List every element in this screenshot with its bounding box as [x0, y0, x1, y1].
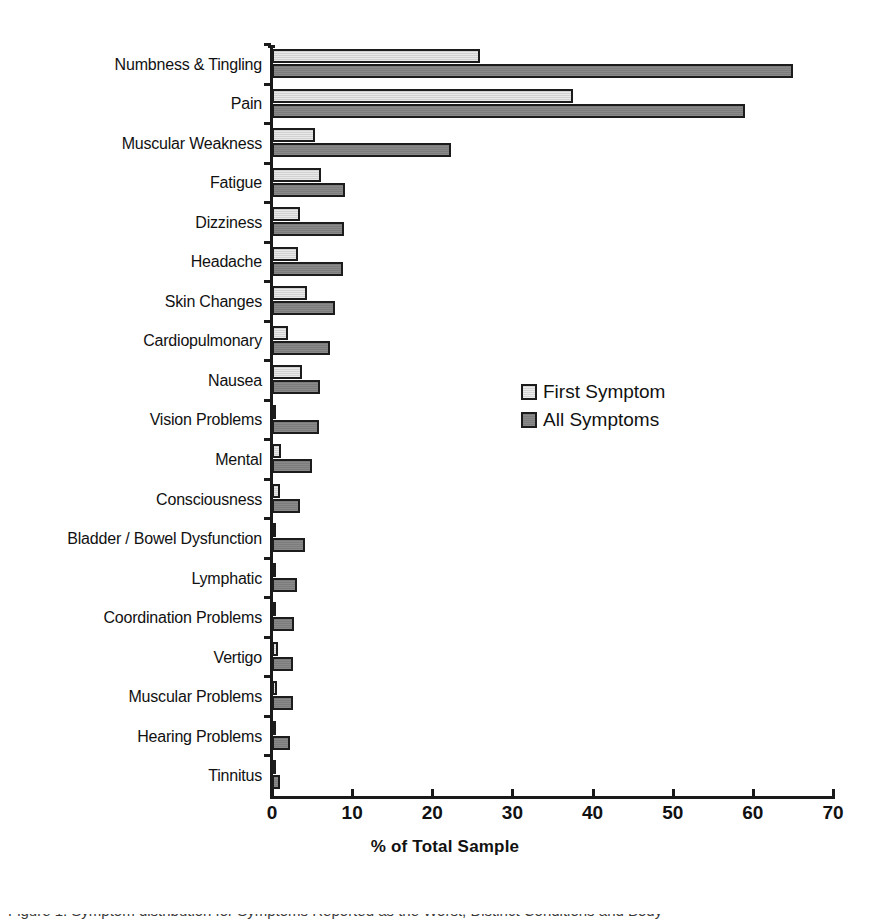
bar-first-symptom: [272, 760, 276, 774]
y-axis-tick: [264, 122, 271, 125]
bar-all-symptoms: [272, 538, 305, 552]
bar-all-symptoms: [272, 64, 793, 78]
bar-first-symptom: [272, 484, 280, 498]
x-axis-line: [270, 796, 835, 799]
x-axis-tick-label: 70: [811, 802, 855, 824]
chart-category-row: Dizziness: [272, 203, 833, 243]
bar-first-symptom: [272, 523, 276, 537]
bar-first-symptom: [272, 207, 300, 221]
chart-category-row: Skin Changes: [272, 282, 833, 322]
category-label: Hearing Problems: [137, 728, 262, 746]
bar-all-symptoms: [272, 262, 343, 276]
chart-category-row: Consciousness: [272, 480, 833, 520]
bar-all-symptoms: [272, 617, 294, 631]
bar-all-symptoms: [272, 104, 745, 118]
bar-all-symptoms: [272, 420, 319, 434]
bar-first-symptom: [272, 168, 321, 182]
x-axis-tick: [592, 789, 595, 798]
bar-first-symptom: [272, 49, 480, 63]
x-axis-tick-label: 0: [250, 802, 294, 824]
y-axis-tick: [264, 636, 271, 639]
category-label: Pain: [231, 95, 262, 113]
chart-category-row: Coordination Problems: [272, 598, 833, 638]
category-label: Consciousness: [156, 491, 262, 509]
bar-first-symptom: [272, 365, 302, 379]
x-axis-tick: [511, 789, 514, 798]
chart-category-row: Fatigue: [272, 164, 833, 204]
x-axis-tick: [271, 789, 274, 798]
y-axis-tick: [264, 517, 271, 520]
y-axis-tick: [264, 675, 271, 678]
category-label: Lymphatic: [191, 570, 262, 588]
y-axis-tick: [264, 557, 271, 560]
bar-all-symptoms: [272, 341, 330, 355]
category-label: Nausea: [208, 372, 262, 390]
x-axis-tick-label: 60: [731, 802, 775, 824]
bar-all-symptoms: [272, 657, 293, 671]
bar-all-symptoms: [272, 222, 344, 236]
category-label: Cardiopulmonary: [143, 332, 262, 350]
category-label: Skin Changes: [165, 293, 262, 311]
bar-all-symptoms: [272, 499, 300, 513]
legend-label-first-symptom: First Symptom: [543, 382, 665, 402]
y-axis-tick: [264, 320, 271, 323]
chart-category-row: Cardiopulmonary: [272, 322, 833, 362]
y-axis-tick: [264, 596, 271, 599]
figure-caption-cropped: Figure 1. Symptom distribution for Sympt…: [0, 914, 890, 924]
legend-swatch-icon-first-symptom: [521, 384, 537, 400]
category-label: Coordination Problems: [103, 609, 262, 627]
bar-all-symptoms: [272, 736, 290, 750]
category-label: Vision Problems: [150, 411, 262, 429]
y-axis-tick: [264, 201, 271, 204]
y-axis-tick: [264, 83, 271, 86]
y-axis-tick: [264, 478, 271, 481]
horizontal-bar-chart: Numbness & TinglingPainMuscular Weakness…: [0, 0, 890, 924]
category-label: Fatigue: [210, 174, 262, 192]
x-axis-tick-label: 50: [651, 802, 695, 824]
x-axis-tick: [752, 789, 755, 798]
chart-legend: First Symptom All Symptoms: [521, 378, 731, 434]
category-label: Muscular Weakness: [122, 135, 262, 153]
category-label: Headache: [191, 253, 262, 271]
bar-first-symptom: [272, 602, 276, 616]
bar-first-symptom: [272, 89, 573, 103]
figure-caption-text: Figure 1. Symptom distribution for Sympt…: [8, 914, 882, 919]
chart-category-row: Tinnitus: [272, 756, 833, 796]
legend-label-all-symptoms: All Symptoms: [543, 410, 659, 430]
bar-all-symptoms: [272, 578, 297, 592]
y-axis-tick: [264, 162, 271, 165]
x-axis-title: % of Total Sample: [0, 837, 890, 857]
category-label: Numbness & Tingling: [115, 56, 262, 74]
bar-all-symptoms: [272, 380, 320, 394]
chart-category-row: Bladder / Bowel Dysfunction: [272, 519, 833, 559]
x-axis-tick-label: 20: [410, 802, 454, 824]
bar-all-symptoms: [272, 183, 345, 197]
y-axis-tick: [264, 43, 271, 46]
legend-swatch-icon-all-symptoms: [521, 412, 537, 428]
chart-category-row: Muscular Problems: [272, 677, 833, 717]
legend-item-first-symptom: First Symptom: [521, 378, 731, 406]
chart-category-row: Vertigo: [272, 638, 833, 678]
bar-all-symptoms: [272, 459, 312, 473]
bar-first-symptom: [272, 326, 288, 340]
bar-first-symptom: [272, 247, 298, 261]
bar-first-symptom: [272, 642, 278, 656]
x-axis-tick: [672, 789, 675, 798]
y-axis-tick: [264, 715, 271, 718]
chart-category-row: Muscular Weakness: [272, 124, 833, 164]
category-label: Tinnitus: [208, 767, 262, 785]
legend-item-all-symptoms: All Symptoms: [521, 406, 731, 434]
chart-category-row: Pain: [272, 85, 833, 125]
bar-first-symptom: [272, 721, 276, 735]
chart-category-row: Mental: [272, 440, 833, 480]
x-axis-tick-label: 10: [330, 802, 374, 824]
bar-first-symptom: [272, 286, 307, 300]
bar-first-symptom: [272, 128, 315, 142]
category-label: Vertigo: [214, 649, 262, 667]
x-axis-tick: [351, 789, 354, 798]
chart-category-row: Headache: [272, 243, 833, 283]
bar-first-symptom: [272, 563, 276, 577]
bar-all-symptoms: [272, 301, 335, 315]
chart-category-row: Lymphatic: [272, 559, 833, 599]
x-axis-tick-label: 30: [490, 802, 534, 824]
